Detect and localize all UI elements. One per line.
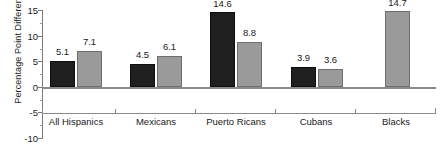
x-category-label-blacks: Blacks xyxy=(356,117,436,127)
y-tick-5 xyxy=(38,61,43,62)
x-axis-separator-3 xyxy=(275,109,276,114)
x-axis-spine xyxy=(42,113,436,114)
bar-puerto-ricans-gray xyxy=(237,42,262,87)
x-axis-separator-4 xyxy=(355,109,356,114)
y-tick-label-neg5: -5 xyxy=(14,108,38,118)
bar-value-mexicans-dark: 4.5 xyxy=(130,50,155,60)
x-category-label-cubans: Cubans xyxy=(276,117,356,127)
x-category-label-mexicans: Mexicans xyxy=(116,117,196,127)
x-axis-separator-2 xyxy=(195,109,196,114)
y-tick-label-neg10: -10 xyxy=(14,134,38,144)
y-minor-tick-7.5 xyxy=(40,49,43,50)
y-minor-tick-2.5 xyxy=(40,74,43,75)
bar-value-blacks-gray: 14.7 xyxy=(383,0,412,8)
y-tick-label-15: 15 xyxy=(14,6,38,16)
y-tick-10 xyxy=(38,36,43,37)
x-axis-right-cap xyxy=(435,108,436,114)
x-category-label-puerto-ricans: Puerto Ricans xyxy=(196,117,276,127)
bar-value-cubans-dark: 3.9 xyxy=(291,53,316,63)
bar-value-mexicans-gray: 6.1 xyxy=(157,42,182,52)
bar-all-hispanics-dark xyxy=(50,61,75,87)
bar-mexicans-gray xyxy=(157,56,182,87)
y-minor-tick-12.5 xyxy=(40,23,43,24)
bar-cubans-dark xyxy=(291,67,316,87)
y-tick-15 xyxy=(38,10,43,11)
x-category-label-all-hispanics: All Hispanics xyxy=(36,117,116,127)
bar-mexicans-dark xyxy=(130,64,155,87)
bar-cubans-gray xyxy=(318,69,343,87)
y-tick-neg10 xyxy=(38,138,43,139)
bar-value-cubans-gray: 3.6 xyxy=(318,55,343,65)
zero-baseline xyxy=(42,87,436,89)
bar-all-hispanics-gray xyxy=(77,51,102,87)
bar-value-puerto-ricans-dark: 14.6 xyxy=(208,0,237,9)
y-tick-label-5: 5 xyxy=(14,57,38,67)
y-minor-tick-neg2.5 xyxy=(40,100,43,101)
bar-puerto-ricans-dark xyxy=(210,12,235,87)
y-tick-label-10: 10 xyxy=(14,32,38,42)
bar-blacks-gray xyxy=(385,11,410,87)
x-axis-left-cap xyxy=(42,108,43,114)
bar-value-all-hispanics-dark: 5.1 xyxy=(50,47,75,57)
y-axis-tick-labels: 15 10 5 0 -5 -10 xyxy=(12,0,38,149)
bar-chart: Percentage Point Differential 15 10 5 0 … xyxy=(0,0,440,149)
x-axis-separator-1 xyxy=(115,109,116,114)
y-tick-label-0: 0 xyxy=(14,83,38,93)
bar-value-puerto-ricans-gray: 8.8 xyxy=(237,28,262,38)
bar-value-all-hispanics-gray: 7.1 xyxy=(77,37,102,47)
